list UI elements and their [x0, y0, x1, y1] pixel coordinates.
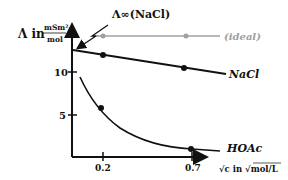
x-tick-label-0.7: 0.7 — [185, 163, 201, 173]
x-axis-label: √c in √mol/L — [219, 164, 278, 174]
y-axis-unit-numerator: mSm² — [44, 23, 69, 32]
y-axis-label: Λ in — [17, 27, 45, 41]
y-tick-label-10: 10 — [54, 67, 68, 78]
nacl-label: NaCl — [228, 68, 259, 81]
hoac-point-0.2 — [98, 105, 104, 111]
y-tick-label-5: 5 — [59, 110, 66, 121]
annotation-lambda-inf: Λ∞(NaCl) — [111, 8, 170, 21]
hoac-point-0.7 — [188, 146, 194, 152]
ideal-point-0.2 — [101, 34, 106, 39]
ideal-label: (ideal) — [224, 31, 261, 42]
x-tick-label-0.2: 0.2 — [95, 163, 111, 173]
hoac-label: HOAc — [226, 142, 263, 155]
hoac-curve — [80, 77, 220, 151]
nacl-point-0.2 — [100, 52, 106, 58]
y-axis-unit-denominator: mol — [47, 35, 63, 44]
nacl-line — [73, 50, 226, 74]
nacl-point-0.7 — [181, 65, 187, 71]
chart: 10 5 0.2 0.7 Λ in mSm² mol Λ∞(NaCl) (ide… — [0, 0, 288, 180]
ideal-point-0.7 — [184, 34, 189, 39]
